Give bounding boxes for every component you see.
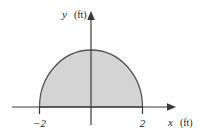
x-axis-unit: (ft) [180, 117, 193, 129]
y-axis-variable: y [61, 8, 67, 20]
x-axis-variable: x [167, 116, 173, 128]
x-tick-label-positive-2: 2 [140, 117, 146, 129]
y-axis-unit: (ft) [74, 9, 87, 21]
x-tick-label-negative-2: −2 [33, 117, 46, 129]
semicircle-figure: −2 2 y (ft) x (ft) [0, 0, 202, 136]
